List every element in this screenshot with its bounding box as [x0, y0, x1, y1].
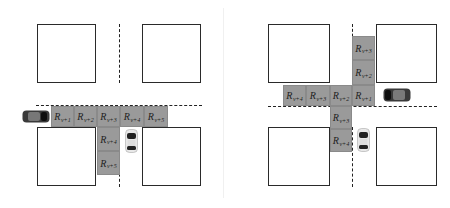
building-block-bottom-right — [142, 127, 201, 186]
cell-symbol: R — [148, 111, 154, 122]
reservation-cell: Rv+4 — [330, 129, 352, 152]
reservation-cell: Rv+3 — [306, 85, 330, 106]
cell-symbol: R — [286, 90, 292, 101]
cell-symbol: R — [77, 111, 83, 122]
reservation-cell: Rv+4 — [97, 127, 120, 151]
reservation-cell: Rv+3 — [97, 106, 120, 127]
cell-symbol: R — [333, 135, 339, 146]
reservation-cell: Rv+3 — [352, 36, 375, 60]
cell-symbol: R — [355, 90, 361, 101]
cell-subscript: v+4 — [339, 141, 349, 147]
cell-subscript: v+1 — [61, 117, 71, 123]
cell-subscript: v+1 — [362, 96, 372, 102]
cell-subscript: v+4 — [107, 139, 117, 145]
cell-symbol: R — [355, 43, 361, 54]
cell-symbol: R — [100, 134, 106, 145]
reservation-cell: Rv+5 — [97, 151, 120, 175]
cell-subscript: v+4 — [293, 96, 303, 102]
car-icon — [357, 128, 370, 152]
cell-subscript: v+5 — [154, 117, 164, 123]
building-block-bottom-left — [37, 127, 96, 186]
cell-symbol: R — [333, 90, 339, 101]
cell-subscript: v+4 — [130, 117, 140, 123]
reservation-cell: Rv+2 — [330, 85, 352, 106]
cell-symbol: R — [100, 111, 106, 122]
cell-subscript: v+3 — [362, 48, 372, 54]
cell-subscript: v+3 — [339, 118, 349, 124]
car-icon — [22, 110, 50, 123]
reservation-cell: Rv+4 — [283, 85, 306, 106]
cell-symbol: R — [124, 111, 130, 122]
building-block-top-left — [268, 24, 330, 83]
reservation-cell: Rv+1 — [352, 85, 375, 106]
reservation-cell: Rv+2 — [352, 60, 375, 85]
building-block-bottom-right — [376, 127, 437, 186]
cell-subscript: v+2 — [362, 73, 372, 79]
reservation-cell: Rv+3 — [330, 106, 352, 129]
building-block-top-left — [37, 24, 96, 83]
cell-subscript: v+5 — [107, 163, 117, 169]
cell-subscript: v+2 — [339, 96, 349, 102]
reservation-cell: Rv+2 — [74, 106, 97, 127]
cell-symbol: R — [355, 67, 361, 78]
building-block-top-right — [376, 24, 437, 83]
reservation-cell: Rv+5 — [144, 106, 168, 127]
lane-divider-horizontal — [268, 106, 437, 107]
intersection-left: Rv+1 Rv+2 Rv+3 Rv+4 Rv+5 Rv+4 Rv+5 — [0, 0, 224, 208]
cell-subscript: v+2 — [84, 117, 94, 123]
reservation-cell: Rv+1 — [51, 106, 74, 127]
cell-symbol: R — [54, 111, 60, 122]
lane-divider-vertical-bottom — [352, 127, 353, 187]
cell-subscript: v+3 — [107, 117, 117, 123]
cell-subscript: v+3 — [316, 96, 326, 102]
intersection-right: Rv+3 Rv+2 Rv+4 Rv+3 Rv+2 Rv+1 Rv+3 Rv+4 — [226, 0, 450, 208]
building-block-top-right — [142, 24, 201, 83]
car-icon — [383, 88, 411, 102]
car-icon — [125, 129, 138, 153]
cell-symbol: R — [333, 112, 339, 123]
reservation-cell: Rv+4 — [120, 106, 144, 127]
lane-divider-vertical-top — [119, 24, 120, 83]
building-block-bottom-left — [268, 127, 330, 186]
cell-symbol: R — [100, 158, 106, 169]
cell-symbol: R — [310, 90, 316, 101]
